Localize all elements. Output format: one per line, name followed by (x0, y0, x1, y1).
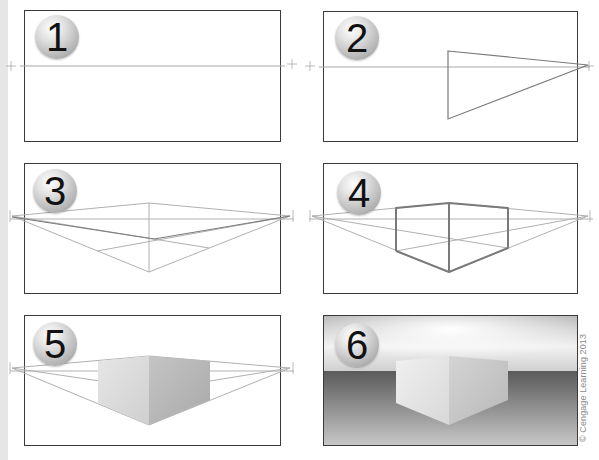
step-badge-2: 2 (335, 16, 379, 60)
step-number: 3 (44, 171, 66, 211)
step-badge-4: 4 (337, 171, 381, 215)
step-number: 6 (346, 325, 368, 365)
step-number: 2 (346, 18, 368, 58)
vanishing-point-left-icon (6, 61, 16, 71)
copyright-notice: © Cengage Learning 2013 (578, 330, 592, 442)
step-number: 4 (348, 173, 370, 213)
step-badge-5: 5 (33, 322, 77, 366)
step-number: 1 (46, 17, 68, 57)
step-badge-1: 1 (35, 15, 79, 59)
vanishing-point-right-icon (287, 59, 297, 69)
perspective-diagram (0, 0, 599, 460)
step-badge-6: 6 (335, 323, 379, 367)
vanishing-point-left-icon (305, 61, 315, 71)
step-number: 5 (44, 324, 66, 364)
step-badge-3: 3 (33, 169, 77, 213)
